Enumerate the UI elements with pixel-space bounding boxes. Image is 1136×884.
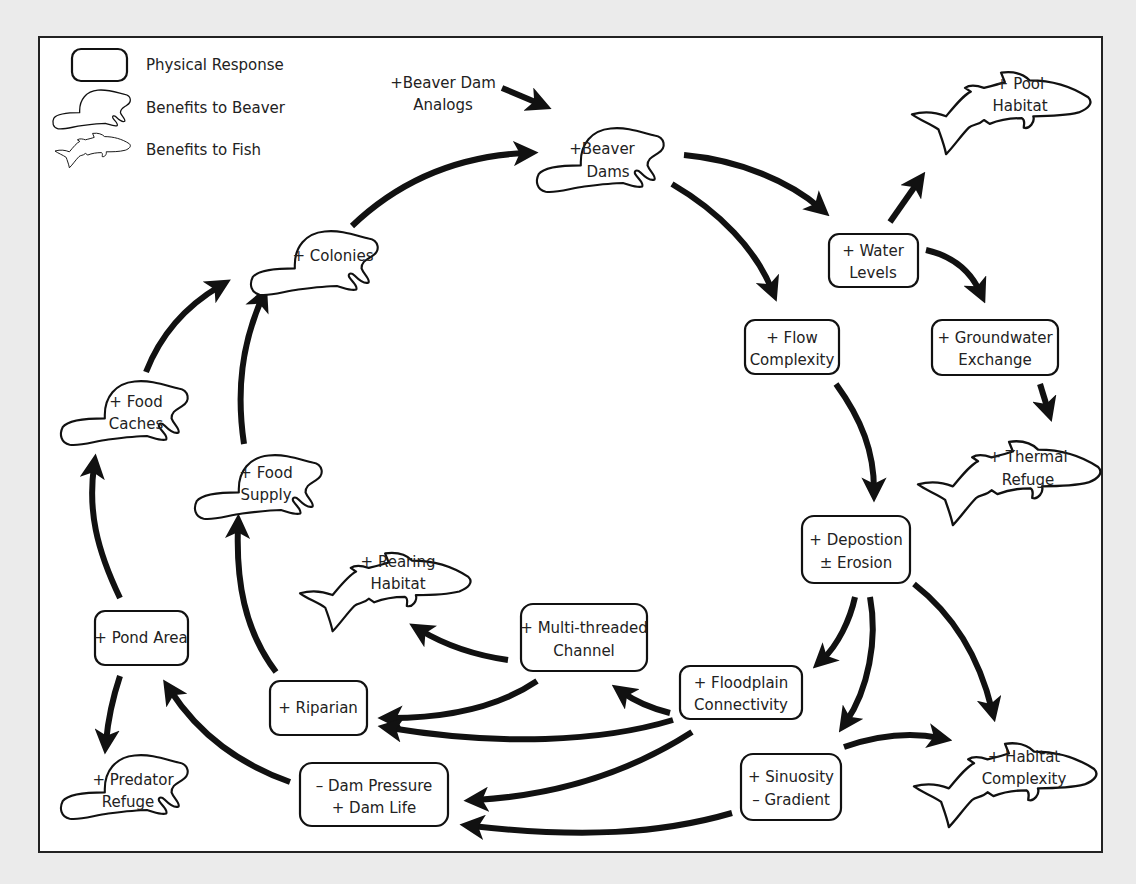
node-food-supply: + Food Supply [195, 455, 322, 519]
svg-text:Channel: Channel [553, 642, 615, 660]
svg-text:+ Floodplain: + Floodplain [694, 674, 789, 692]
arrow-floodplain-to-multithreaded [622, 692, 670, 713]
svg-text:+ Depostion: + Depostion [809, 531, 902, 549]
arrow-water-to-pool [890, 182, 918, 222]
svg-text:+ Flow: + Flow [766, 329, 818, 347]
node-rearing-habitat: + Rearing Habitat [300, 553, 471, 631]
svg-text:Levels: Levels [849, 264, 897, 282]
beaver-icon [61, 381, 188, 445]
arrow-multithreaded-to-rearing [420, 630, 508, 660]
svg-text:+Beaver: +Beaver [569, 140, 635, 158]
node-habitat-complexity: + Habitat Complexity [914, 743, 1096, 827]
arrow-riparian-to-food-supply [238, 526, 276, 672]
node-colonies: + Colonies [251, 231, 378, 295]
arrow-floodplain-to-dam-pressure [476, 732, 692, 800]
svg-text:+Beaver Dam: +Beaver Dam [390, 74, 496, 92]
beaver-icon [537, 128, 664, 192]
svg-text:+ Pool: + Pool [996, 75, 1044, 93]
node-thermal-refuge: + Thermal Refuge [918, 441, 1100, 525]
svg-text:– Gradient: – Gradient [752, 791, 830, 809]
svg-text:Refuge: Refuge [1002, 471, 1055, 489]
node-deposition-erosion: + Depostion ± Erosion [802, 516, 910, 583]
svg-text:+ Colonies: + Colonies [292, 247, 373, 265]
svg-text:+ Pond Area: + Pond Area [94, 629, 187, 647]
svg-text:Dams: Dams [586, 163, 629, 181]
arrow-deposition-to-habitat [914, 584, 992, 710]
arrow-dams-to-flow [672, 184, 772, 290]
svg-text:Habitat: Habitat [370, 575, 425, 593]
arrow-food-supply-to-colonies [241, 298, 262, 444]
node-water-levels: + Water Levels [829, 234, 918, 287]
svg-text:+ Predator: + Predator [92, 771, 174, 789]
node-flow-complexity: + Flow Complexity [745, 320, 839, 374]
svg-text:+ Multi-threaded: + Multi-threaded [520, 619, 647, 637]
svg-text:Exchange: Exchange [958, 351, 1031, 369]
feedback-diagram: Physical Response Benefits to Beaver Ben… [0, 0, 1136, 884]
node-dam-pressure-life: – Dam Pressure + Dam Life [300, 763, 448, 826]
node-pool-habitat: + Pool Habitat [912, 72, 1090, 154]
node-sinuosity-gradient: + Sinuosity – Gradient [741, 754, 841, 820]
arrow-pond-to-food-caches [92, 466, 120, 598]
svg-text:Analogs: Analogs [413, 96, 473, 114]
svg-text:+ Riparian: + Riparian [278, 699, 358, 717]
fish-icon [55, 133, 130, 168]
svg-text:+ Groundwater: + Groundwater [937, 329, 1053, 347]
legend-physical-response-swatch [72, 49, 127, 81]
svg-text:+ Rearing: + Rearing [361, 553, 436, 571]
arrow-groundwater-to-thermal [1040, 384, 1048, 410]
svg-text:+ Sinuosity: + Sinuosity [748, 768, 834, 786]
node-riparian: + Riparian [270, 681, 367, 735]
arrow-multithreaded-to-riparian [390, 681, 537, 718]
legend-fish-label: Benefits to Fish [146, 141, 261, 159]
legend: Physical Response Benefits to Beaver Ben… [53, 49, 286, 168]
svg-text:Caches: Caches [109, 415, 164, 433]
arrow-analogs-to-dams [502, 88, 540, 104]
arrow-water-to-groundwater [926, 250, 980, 292]
arrow-deposition-to-floodplain [822, 597, 855, 660]
svg-text:Connectivity: Connectivity [694, 696, 788, 714]
node-pond-area: + Pond Area [94, 611, 188, 665]
node-multi-threaded-channel: + Multi-threaded Channel [520, 604, 647, 671]
arrow-pond-to-predator [106, 676, 120, 742]
beaver-dam-analogs-label: +Beaver Dam Analogs [390, 74, 496, 114]
svg-text:+ Food: + Food [109, 393, 162, 411]
svg-text:+ Food: + Food [239, 464, 292, 482]
svg-text:Supply: Supply [240, 486, 291, 504]
svg-text:Complexity: Complexity [982, 770, 1067, 788]
legend-physical-response-label: Physical Response [146, 56, 284, 74]
svg-text:+ Thermal: + Thermal [988, 448, 1067, 466]
node-beaver-dams: +Beaver Dams [537, 128, 664, 192]
node-food-caches: + Food Caches [61, 381, 188, 445]
svg-text:+ Dam Life: + Dam Life [332, 799, 417, 817]
arrow-flow-to-deposition [836, 384, 874, 490]
arrows [92, 88, 1048, 833]
node-floodplain-connectivity: + Floodplain Connectivity [680, 666, 802, 719]
svg-text:+ Habitat: + Habitat [988, 748, 1061, 766]
legend-beaver-label: Benefits to Beaver [146, 99, 286, 117]
svg-text:Refuge: Refuge [102, 793, 155, 811]
arrow-food-caches-to-colonies [146, 286, 220, 372]
svg-text:+ Water: + Water [842, 242, 905, 260]
arrow-dams-to-water-levels [684, 155, 820, 208]
svg-text:Complexity: Complexity [750, 351, 835, 369]
svg-text:– Dam Pressure: – Dam Pressure [316, 777, 432, 795]
arrow-sinuosity-to-dam-pressure [472, 813, 732, 833]
arrow-sinuosity-to-habitat [844, 735, 940, 747]
svg-text:Habitat: Habitat [992, 97, 1047, 115]
arrow-floodplain-to-riparian [390, 720, 673, 739]
node-predator-refuge: + Predator Refuge [61, 755, 188, 819]
node-groundwater-exchange: + Groundwater Exchange [932, 320, 1058, 375]
arrow-colonies-to-dams [352, 153, 526, 226]
svg-text:± Erosion: ± Erosion [820, 554, 893, 572]
beaver-icon [53, 90, 130, 129]
